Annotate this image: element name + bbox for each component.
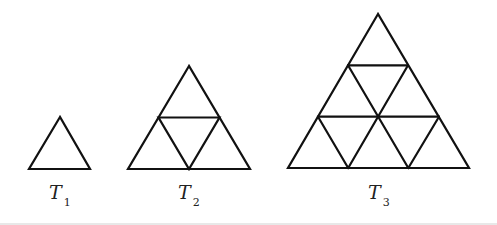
label-t2-letter: T — [178, 181, 191, 203]
label-t3-subscript: 3 — [383, 196, 390, 209]
triangle-t2 — [128, 66, 250, 169]
label-t3: T3 — [368, 181, 390, 207]
label-t3-letter: T — [368, 181, 381, 203]
label-t1-subscript: 1 — [64, 196, 71, 209]
label-t2: T2 — [178, 181, 200, 207]
triangle-t3 — [288, 14, 469, 168]
triangle-figure — [0, 0, 497, 225]
label-t1: T1 — [49, 181, 71, 207]
bottom-divider — [0, 223, 497, 225]
label-t2-subscript: 2 — [193, 196, 200, 209]
label-t1-letter: T — [49, 181, 62, 203]
triangle-t1 — [29, 117, 90, 169]
